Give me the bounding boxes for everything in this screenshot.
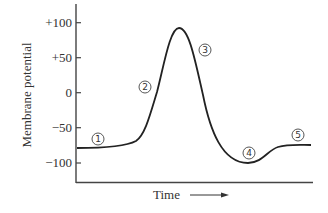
action-potential-curve [77,28,311,163]
marker-5: 5 [292,129,304,141]
marker-2: 2 [139,81,151,93]
tick-label-zero: 0 [66,85,73,100]
x-axis-title: Time [153,187,180,202]
tick-label-minus100: −100 [45,155,72,170]
arrow-right-icon [190,193,229,198]
svg-text:2: 2 [142,82,148,92]
marker-3: 3 [199,44,211,56]
phase-markers: 1 2 3 4 5 [92,44,304,159]
marker-4: 4 [243,147,255,159]
tick-label-plus50: +50 [52,50,72,65]
tick-label-minus50: −50 [52,120,72,135]
svg-text:3: 3 [202,45,208,55]
y-tick-labels: +100 +50 0 −50 −100 [45,15,72,170]
tick-label-plus100: +100 [45,15,72,30]
y-ticks [76,23,81,163]
svg-text:5: 5 [295,130,301,140]
y-axis-title: Membrane potential [19,42,34,147]
action-potential-chart: +100 +50 0 −50 −100 Membrane potential T… [0,0,328,213]
svg-text:4: 4 [246,148,252,158]
marker-1: 1 [92,133,104,145]
svg-text:1: 1 [95,134,101,144]
